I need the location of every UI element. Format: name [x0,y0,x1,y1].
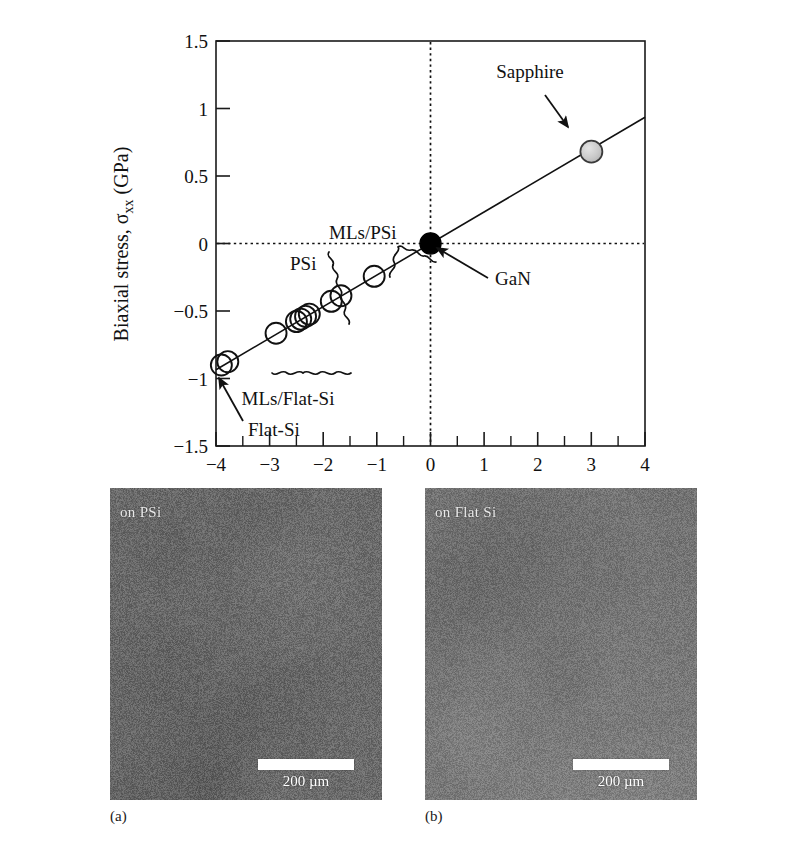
x-tick-label: 2 [533,454,543,475]
micrograph-image-psi: on PSi 200 µm [110,488,382,800]
y-tick-label: −1.5 [174,436,208,457]
y-axis-title: Biaxial stress, σxx (GPa) [110,147,136,342]
scalebar-group-flat-si: 200 µm [561,759,681,790]
panel-a: on PSi 200 µm (a) [110,488,382,800]
x-tick-label: 0 [426,454,436,475]
y-tick-label: −0.5 [174,301,208,322]
data-point-gan [420,233,441,254]
y-tick-label: 0 [199,234,209,255]
figure-root: 1.5 1 0.5 0 −0.5 −1 −1.5 [0,0,808,864]
sapphire-label: Sapphire [496,61,564,82]
gan-label: GaN [495,268,531,289]
x-tick-label: −2 [313,454,333,475]
micrograph-panels: on PSi 200 µm (a) on Flat Si 200 µm (b) [0,488,808,864]
scalebar-text-psi: 200 µm [246,773,366,790]
scalebar-flat-si [573,759,669,770]
scalebar-psi [258,759,354,770]
y-tick-label: 0.5 [184,166,208,187]
micrograph-label-flat-si: on Flat Si [435,504,496,521]
panel-b: on Flat Si 200 µm (b) [425,488,697,800]
x-tick-label: 3 [587,454,597,475]
y-tick-label: 1.5 [184,31,208,52]
panel-caption-b: (b) [425,808,443,825]
x-tick-label: 1 [479,454,489,475]
scalebar-text-flat-si: 200 µm [561,773,681,790]
micrograph-texture-flat-si [425,488,697,800]
y-tick-label: 1 [199,99,209,120]
panel-caption-a: (a) [110,808,127,825]
data-point-sapphire [580,141,602,163]
y-tick-label: −1 [188,369,208,390]
x-tick-label: 4 [640,454,650,475]
x-tick-label: −3 [259,454,279,475]
scalebar-group-psi: 200 µm [246,759,366,790]
mls-psi-label: MLs/PSi [329,222,397,243]
x-tick-label: −1 [367,454,387,475]
mls-flat-si-label: MLs/Flat-Si [242,388,335,409]
micrograph-image-flat-si: on Flat Si 200 µm [425,488,697,800]
x-tick-label: −4 [206,454,227,475]
stress-vs-raman-shift-chart: 1.5 1 0.5 0 −0.5 −1 −1.5 [0,0,808,480]
micrograph-texture-psi [110,488,382,800]
x-axis-tick-labels: −4 −3 −2 −1 0 1 2 3 4 [206,454,650,475]
flat-si-label: Flat-Si [248,419,300,440]
micrograph-label-psi: on PSi [120,504,161,521]
psi-label: PSi [290,253,316,274]
chart-canvas: 1.5 1 0.5 0 −0.5 −1 −1.5 [0,0,808,480]
y-axis-tick-labels: 1.5 1 0.5 0 −0.5 −1 −1.5 [174,31,208,457]
